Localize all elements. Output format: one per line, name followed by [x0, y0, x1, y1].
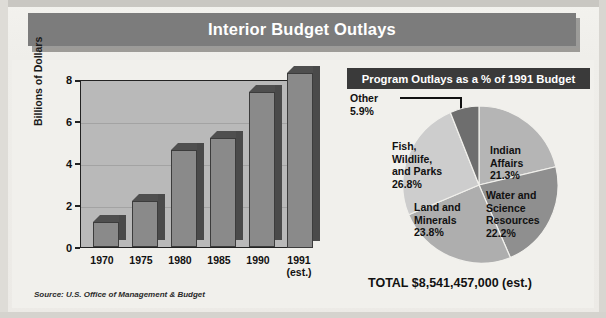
- title-banner: Interior Budget Outlays: [28, 13, 576, 46]
- xtick-label-1990: 1990: [236, 254, 280, 266]
- bar-side-1975: [158, 194, 165, 240]
- page-edge-left: [0, 0, 8, 318]
- page-edge-right: [599, 0, 606, 318]
- xtick-label-1991: 1991 (est.): [275, 254, 323, 278]
- ytick-label-2: 2: [46, 200, 72, 212]
- pie-chart-header: Program Outlays as a % of 1991 Budget: [347, 68, 590, 89]
- bar-face-1975: [132, 201, 158, 247]
- bar-1970: [93, 222, 119, 247]
- ytick-label-8: 8: [46, 74, 72, 86]
- title-banner-underline: [32, 48, 580, 52]
- xtick-label-1980: 1980: [158, 254, 202, 266]
- pie-chart-graphic: Indian Affairs 21.3% Water and Science R…: [398, 104, 560, 266]
- chart-body-panel: Billions of Dollars: [12, 60, 594, 308]
- pie-chart-total: TOTAL $8,541,457,000 (est.): [368, 276, 532, 290]
- pie-chart-panel: Program Outlays as a % of 1991 Budget Ot…: [342, 66, 594, 308]
- pie-slice-label-water-and-science: Water and Science Resources 22.2%: [486, 189, 540, 239]
- bar-face-1970: [93, 222, 119, 247]
- bar-1975: [132, 201, 158, 247]
- bar-1985: [210, 138, 236, 247]
- ytick-label-0: 0: [46, 242, 72, 254]
- bar-chart-y-axis-label: Billions of Dollars: [32, 37, 44, 126]
- page-edge-top: [0, 0, 606, 7]
- xtick-label-1975: 1975: [119, 254, 163, 266]
- page-edge-bottom: [0, 312, 606, 318]
- bar-side-1970: [119, 215, 126, 240]
- bar-side-1980: [197, 143, 204, 240]
- pie-slice-label-fish-wildlife-and-parks: Fish, Wildlife, and Parks 26.8%: [392, 140, 442, 190]
- xtick-label-1985: 1985: [197, 254, 241, 266]
- xtick-label-1970: 1970: [80, 254, 124, 266]
- bar-face-1980: [171, 150, 197, 247]
- source-note: Source: U.S. Office of Management & Budg…: [34, 290, 205, 299]
- bar-side-1991: [313, 66, 320, 241]
- bar-1980: [171, 150, 197, 247]
- pie-slice-label-other: Other 5.9%: [350, 92, 378, 117]
- ytick-mark-2: [75, 205, 80, 207]
- pie-slice-label-indian-affairs: Indian Affairs 21.3%: [490, 144, 523, 182]
- pie-leader-line-horizontal: [400, 97, 462, 99]
- ytick-mark-4: [75, 163, 80, 165]
- ytick-mark-6: [75, 121, 80, 123]
- bar-side-1985: [236, 131, 243, 240]
- ytick-mark-8: [75, 80, 80, 82]
- bar-1991: [287, 73, 313, 248]
- bar-chart-plot-area: [80, 80, 312, 248]
- ytick-label-6: 6: [46, 116, 72, 128]
- bar-chart: Billions of Dollars: [34, 66, 334, 308]
- bar-face-1991: [287, 73, 313, 248]
- ytick-mark-0: [75, 247, 80, 249]
- bar-face-1990: [249, 92, 275, 247]
- bar-1990: [249, 92, 275, 247]
- bar-side-1990: [275, 85, 282, 240]
- page-title: Interior Budget Outlays: [208, 20, 396, 39]
- ytick-label-4: 4: [46, 158, 72, 170]
- bar-face-1985: [210, 138, 236, 247]
- pie-slice-label-land-and-minerals: Land and Minerals 23.8%: [414, 201, 461, 239]
- pie-chart-title: Program Outlays as a % of 1991 Budget: [362, 73, 575, 85]
- figure-root: Interior Budget Outlays Billions of Doll…: [0, 0, 606, 318]
